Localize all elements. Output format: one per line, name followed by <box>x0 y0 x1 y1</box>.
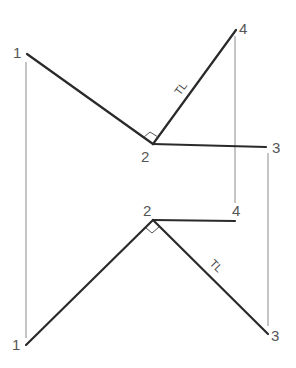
true-length-label-bottom: TL <box>208 257 226 275</box>
top-view: TL 1 2 3 4 <box>13 20 280 165</box>
point-label-4-top: 4 <box>239 20 247 37</box>
right-angle-mark-top <box>144 132 158 137</box>
bottom-line-2-4 <box>153 220 235 221</box>
right-angle-mark-bottom <box>146 227 159 233</box>
point-label-2-bottom: 2 <box>143 202 151 219</box>
top-line-2-3 <box>153 144 266 147</box>
point-label-2-top: 2 <box>141 148 149 165</box>
true-length-label-top: TL <box>172 80 189 97</box>
top-line-2-4-true-length <box>153 30 236 144</box>
bottom-line-1-2 <box>26 220 153 345</box>
top-line-1-2 <box>27 54 153 144</box>
bottom-line-2-3-true-length <box>153 220 268 334</box>
point-label-3-bottom: 3 <box>271 327 279 344</box>
point-label-4-bottom: 4 <box>232 202 240 219</box>
point-label-1-bottom: 1 <box>12 336 20 353</box>
projection-diagram: TL 1 2 3 4 TL 1 2 3 4 <box>0 0 296 368</box>
point-label-1-top: 1 <box>13 44 21 61</box>
bottom-view: TL 1 2 3 4 <box>12 202 279 353</box>
point-label-3-top: 3 <box>272 139 280 156</box>
